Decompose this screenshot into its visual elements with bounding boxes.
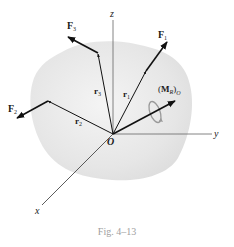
figure-caption: Fig. 4–13 bbox=[98, 226, 136, 237]
force-system-diagram: z y x O r1 r3 r2 F1 F3 F2 (MR)O Fig. 4–1… bbox=[0, 0, 234, 247]
y-axis-label: y bbox=[213, 128, 219, 139]
origin-label: O bbox=[107, 136, 114, 147]
z-axis-label: z bbox=[109, 8, 114, 19]
x-axis-label: x bbox=[34, 205, 40, 216]
f3-label: F3 bbox=[67, 20, 76, 32]
f1-label: F1 bbox=[158, 29, 167, 41]
rigid-body-shape bbox=[30, 41, 192, 180]
f2-label: F2 bbox=[8, 103, 17, 115]
